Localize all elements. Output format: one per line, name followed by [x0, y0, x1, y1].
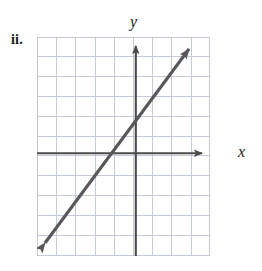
coordinate-plane-svg [37, 37, 210, 256]
coordinate-plane [37, 37, 210, 256]
figure-label: ii. [11, 33, 23, 47]
figure-container: ii. [0, 0, 262, 271]
plot-background [37, 37, 210, 256]
x-axis-label: x [238, 144, 245, 160]
y-axis-label: y [130, 14, 137, 30]
